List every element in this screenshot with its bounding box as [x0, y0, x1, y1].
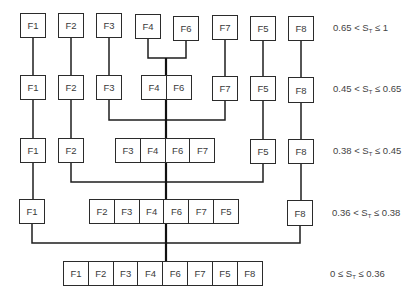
- level2-F4: F4: [141, 75, 167, 100]
- level3-F6: F6: [165, 138, 191, 163]
- dendrogram-diagram: F1 F2 F3 F4 F6 F7 F5 F8 0.65 < ST ≤ 1 F1…: [0, 0, 420, 302]
- level2-F3: F3: [96, 75, 122, 100]
- level3-F5: F5: [250, 139, 276, 164]
- level2-F8: F8: [288, 77, 314, 103]
- level4-F8: F8: [287, 200, 313, 226]
- level3-threshold-label: 0.38 < ST ≤ 0.45: [333, 145, 401, 157]
- level2-F5: F5: [250, 76, 276, 101]
- level1-threshold-label: 0.65 < ST ≤ 1: [333, 22, 388, 34]
- level4-F4: F4: [139, 199, 165, 224]
- level1-F3: F3: [96, 13, 122, 38]
- level5-F6: F6: [162, 261, 188, 286]
- level4-cluster-F2-F5: F2 F3 F4 F6 F7 F5: [89, 199, 239, 224]
- level3-F2: F2: [58, 138, 84, 163]
- level4-F2: F2: [89, 199, 115, 224]
- level2-F7: F7: [212, 76, 238, 101]
- level3-F4: F4: [140, 138, 166, 163]
- level1-F1: F1: [20, 13, 46, 38]
- level5-F8: F8: [237, 261, 263, 286]
- level1-F4: F4: [135, 14, 161, 39]
- level5-F2: F2: [88, 261, 114, 286]
- level3-F7: F7: [189, 138, 215, 163]
- level5-F3: F3: [113, 261, 139, 286]
- level2-cluster-F4-F6: F4 F6: [141, 75, 192, 100]
- level5-cluster-all: F1 F2 F3 F4 F6 F7 F5 F8: [63, 261, 263, 286]
- level4-F6: F6: [163, 199, 189, 224]
- level4-threshold-label: 0.36 < ST ≤ 0.38: [332, 207, 400, 219]
- level4-F1: F1: [19, 199, 45, 224]
- level3-F1: F1: [20, 138, 46, 163]
- level1-F6: F6: [173, 16, 199, 41]
- level2-threshold-label: 0.45 < ST ≤ 0.65: [333, 83, 401, 95]
- level1-F8: F8: [288, 16, 314, 41]
- level5-F4: F4: [137, 261, 163, 286]
- level3-F3: F3: [115, 138, 141, 163]
- level5-F7: F7: [187, 261, 213, 286]
- level2-F1: F1: [20, 75, 46, 100]
- level1-F7: F7: [212, 15, 238, 40]
- level3-cluster-F3-F7: F3 F4 F6 F7: [115, 138, 215, 163]
- level5-threshold-label: 0 ≤ ST ≤ 0.36: [330, 268, 385, 280]
- level4-F5: F5: [213, 199, 239, 224]
- level1-F5: F5: [250, 16, 276, 41]
- level5-F5: F5: [212, 261, 238, 286]
- level1-F2: F2: [58, 13, 84, 38]
- level5-F1: F1: [63, 261, 89, 286]
- level4-F3: F3: [114, 199, 140, 224]
- level2-F6: F6: [166, 75, 192, 100]
- level4-F7: F7: [188, 199, 214, 224]
- level3-F8: F8: [288, 139, 314, 164]
- level2-F2: F2: [58, 75, 84, 100]
